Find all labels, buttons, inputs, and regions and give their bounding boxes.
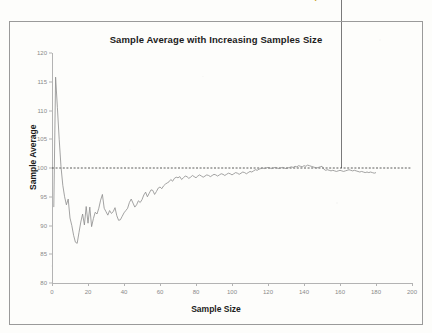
x-tick-mark-140	[304, 283, 305, 286]
y-axis-title: Sample Average	[28, 124, 38, 190]
x-tick-mark-160	[340, 283, 341, 286]
x-tick-mark-0	[52, 283, 53, 286]
x-tick-mark-200	[412, 283, 413, 286]
x-tick-mark-120	[268, 283, 269, 286]
x-tick-label-180: 180	[371, 289, 381, 295]
x-tick-mark-60	[160, 283, 161, 286]
x-tick-label-120: 120	[263, 289, 273, 295]
x-tick-mark-180	[376, 283, 377, 286]
series-line-sample-average	[54, 77, 376, 243]
x-tick-mark-40	[124, 283, 125, 286]
data-plot	[52, 53, 412, 283]
chart-page: Sample Mean Sample Average with Increasi…	[0, 0, 432, 333]
x-tick-label-20: 20	[85, 289, 92, 295]
x-tick-label-160: 160	[335, 289, 345, 295]
chart-title: Sample Average with Increasing Samples S…	[10, 34, 422, 45]
x-tick-label-100: 100	[227, 289, 237, 295]
sample-mean-annotation-label: Sample Mean	[296, 0, 353, 1]
x-tick-label-40: 40	[121, 289, 128, 295]
x-axis-title: Sample Size	[10, 304, 422, 314]
x-tick-mark-100	[232, 283, 233, 286]
x-tick-mark-20	[88, 283, 89, 286]
x-tick-label-60: 60	[157, 289, 164, 295]
x-tick-label-140: 140	[299, 289, 309, 295]
x-tick-label-0: 0	[50, 289, 53, 295]
plot-area: 80859095100105110115120 0204060801001201…	[52, 53, 412, 283]
x-tick-mark-80	[196, 283, 197, 286]
x-tick-label-80: 80	[193, 289, 200, 295]
x-tick-label-200: 200	[407, 289, 417, 295]
